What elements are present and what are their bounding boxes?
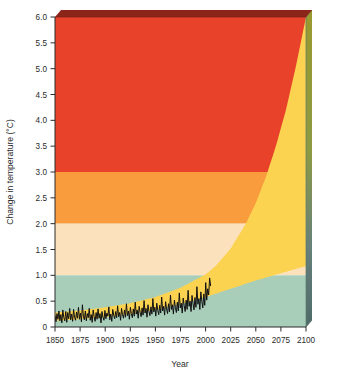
y-tick-label: 0.5: [36, 297, 48, 306]
chart-canvas: 00.51.01.52.02.53.03.54.04.55.05.56.0 18…: [0, 0, 338, 378]
y-tick-label: 5.0: [36, 65, 48, 74]
x-axis-title: Year: [171, 359, 189, 369]
x-tick-label: 2100: [297, 336, 316, 345]
y-tick-label: 3.5: [36, 142, 48, 151]
x-tick-label: 1850: [46, 336, 65, 345]
y-axis-title: Change in temperature (°C): [5, 119, 15, 225]
right-side-face: [306, 10, 312, 327]
y-tick-label: 5.5: [36, 39, 48, 48]
x-tick-label: 1950: [146, 336, 165, 345]
x-tick-label: 2050: [247, 336, 266, 345]
x-tick-label: 1900: [96, 336, 115, 345]
x-tick-label: 1925: [121, 336, 140, 345]
y-tick-label: 0: [42, 323, 47, 332]
y-tick-label: 3.0: [36, 168, 48, 177]
x-tick-label: 2025: [222, 336, 241, 345]
x-tick-label: 1875: [71, 336, 90, 345]
y-tick-label: 6.0: [36, 13, 48, 22]
y-tick-label: 4.5: [36, 91, 48, 100]
y-tick-label: 2.0: [36, 220, 48, 229]
x-tick-label: 2000: [196, 336, 215, 345]
y-tick-label: 4.0: [36, 116, 48, 125]
y-tick-label: 1.5: [36, 246, 48, 255]
x-tick-label: 2075: [272, 336, 291, 345]
top-bevel-face: [55, 10, 312, 17]
y-tick-label: 2.5: [36, 194, 48, 203]
band-very-high-risk: [55, 17, 306, 172]
y-tick-label: 1.0: [36, 271, 48, 280]
x-tick-label: 1975: [171, 336, 190, 345]
climate-warming-chart-figure: 00.51.01.52.02.53.03.54.04.55.05.56.0 18…: [0, 0, 338, 378]
